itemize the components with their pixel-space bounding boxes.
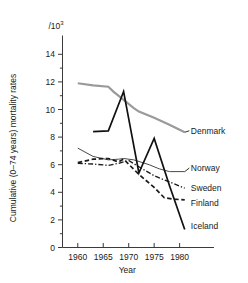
series-label-denmark: Denmark bbox=[191, 126, 226, 136]
y-axis-unit-label: /103 bbox=[49, 20, 65, 30]
y-tick-label: 4 bbox=[50, 187, 55, 197]
x-tick-label: 1960 bbox=[68, 252, 87, 262]
series-line-denmark bbox=[78, 83, 185, 132]
y-tick-label: 6 bbox=[50, 160, 55, 170]
label-leader-norway bbox=[185, 168, 190, 172]
series-labels-layer: DenmarkNorwaySwedenFinlandIceland bbox=[185, 126, 226, 231]
y-axis-title: Cumulative (0–74 years) mortality rates bbox=[8, 74, 18, 222]
y-tick-label: 8 bbox=[50, 132, 55, 142]
y-tick-label: 10 bbox=[46, 105, 56, 115]
series-label-norway: Norway bbox=[191, 163, 221, 173]
y-tick-label: 0 bbox=[50, 243, 55, 253]
x-tick-label: 1980 bbox=[170, 252, 189, 262]
x-tick-label: 1965 bbox=[94, 252, 113, 262]
series-label-sweden: Sweden bbox=[191, 183, 222, 193]
chart-canvas: DenmarkNorwaySwedenFinlandIceland 024681… bbox=[0, 0, 248, 283]
series-label-finland: Finland bbox=[191, 198, 219, 208]
x-tick-label: 1975 bbox=[145, 252, 164, 262]
series-layer bbox=[78, 83, 185, 229]
y-tick-label: 14 bbox=[46, 49, 56, 59]
axes-layer bbox=[58, 36, 214, 248]
label-leader-denmark bbox=[185, 131, 190, 133]
x-tick-label: 1970 bbox=[119, 252, 138, 262]
svg-text:/103: /103 bbox=[49, 20, 65, 30]
y-tick-label: 12 bbox=[46, 77, 56, 87]
x-axis-title: Year bbox=[119, 265, 136, 275]
series-line-finland bbox=[78, 158, 185, 199]
axis-text-layer: 0246810121419601965197019751980/103YearC… bbox=[8, 20, 189, 274]
series-label-iceland: Iceland bbox=[191, 221, 219, 231]
mortality-rates-line-chart: DenmarkNorwaySwedenFinlandIceland 024681… bbox=[0, 0, 248, 283]
y-tick-label: 2 bbox=[50, 215, 55, 225]
